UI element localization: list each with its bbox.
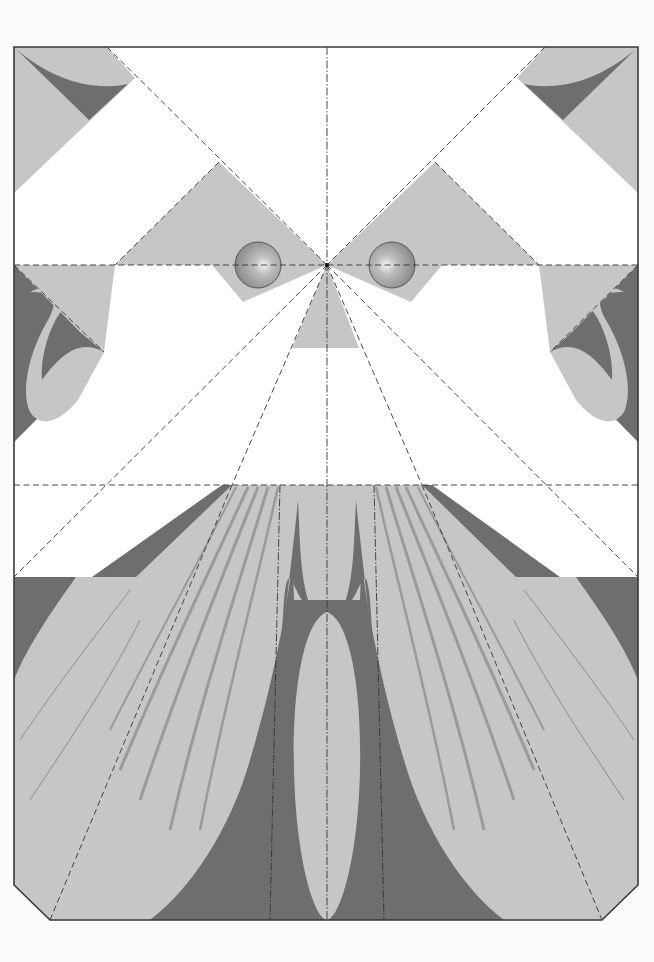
nose-apex-point xyxy=(325,263,329,267)
papercraft-template xyxy=(0,0,654,962)
